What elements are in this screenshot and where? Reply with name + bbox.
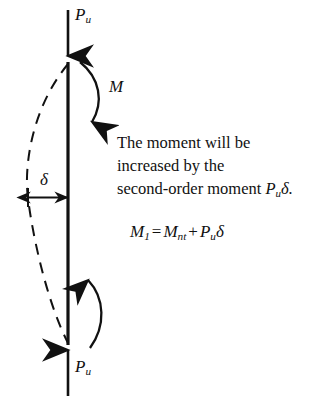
second-order-moment-figure: Pu M δ Pu The moment will be increased b…: [0, 0, 334, 400]
annotation-line-3-prefix: second-order moment: [117, 179, 265, 198]
upper-moment-arc: [80, 62, 99, 122]
top-load-symbol: P: [75, 5, 85, 24]
equation-lhs-subscript: 1: [144, 230, 150, 242]
bottom-load-symbol: P: [75, 357, 85, 376]
equation-plus: +: [186, 222, 200, 241]
equation-lhs-symbol: M: [130, 222, 144, 241]
equation-term2-symbol: P: [200, 222, 210, 241]
equation-equals: =: [150, 222, 164, 241]
moment-equation: M1=Mnt+Puδ: [130, 222, 224, 242]
equation-term1-subscript: nt: [178, 230, 187, 242]
top-load-label: Pu: [75, 6, 91, 23]
annotation-text-block: The moment will be increased by the seco…: [117, 131, 332, 200]
bottom-load-label: Pu: [75, 358, 91, 375]
annotation-line-3: second-order moment Puδ.: [117, 177, 332, 200]
annotation-line-3-suffix: δ.: [281, 179, 293, 198]
column-diagram-graphics: [0, 0, 334, 400]
annotation-line-3-symbol: P: [265, 179, 275, 198]
deflection-label: δ: [40, 171, 48, 188]
annotation-line-2: increased by the: [117, 154, 332, 177]
lower-moment-arc: [88, 280, 101, 348]
deflected-shape-curve: [27, 64, 68, 343]
top-load-subscript: u: [85, 13, 91, 25]
bottom-load-subscript: u: [85, 365, 91, 377]
annotation-line-1: The moment will be: [117, 131, 332, 154]
equation-term2-factor: δ: [216, 222, 224, 241]
equation-term1-symbol: M: [163, 222, 177, 241]
moment-label: M: [109, 78, 123, 95]
